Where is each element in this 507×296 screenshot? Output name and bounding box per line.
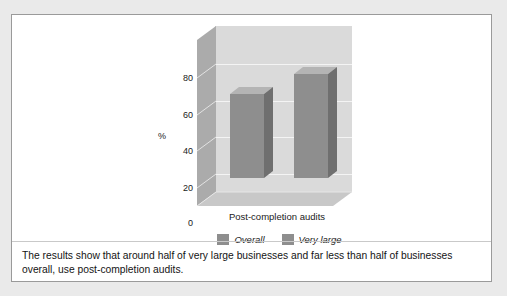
figure-caption: The results show that around half of ver… — [22, 249, 482, 277]
y-axis-title: % — [158, 131, 166, 141]
legend-item-overall[interactable]: Overall — [217, 234, 264, 245]
chart-region: 80 60 40 20 0 % — [12, 15, 491, 228]
legend-item-very-large[interactable]: Very large — [282, 234, 342, 245]
legend-label-very-large: Very large — [299, 234, 342, 245]
y-axis-tick-60: 60 — [167, 111, 193, 120]
screenshot-page: 80 60 40 20 0 % — [0, 0, 507, 296]
chart-legend: Overall Very large — [197, 234, 362, 245]
figure-panel: 80 60 40 20 0 % — [11, 14, 492, 282]
chart-floor — [197, 178, 352, 206]
bar-very-large[interactable] — [294, 60, 337, 180]
legend-swatch-icon — [217, 234, 229, 245]
y-axis-tick-20: 20 — [167, 184, 193, 193]
caption-divider — [12, 241, 491, 242]
bar-overall[interactable] — [230, 80, 273, 180]
legend-swatch-icon — [282, 234, 294, 245]
legend-label-overall: Overall — [234, 234, 264, 245]
y-axis-tick-40: 40 — [167, 147, 193, 156]
plot-area — [197, 26, 352, 206]
y-axis-tick-0: 0 — [167, 219, 193, 228]
x-axis-category-label: Post-completion audits — [197, 211, 357, 222]
y-axis-tick-80: 80 — [167, 74, 193, 83]
